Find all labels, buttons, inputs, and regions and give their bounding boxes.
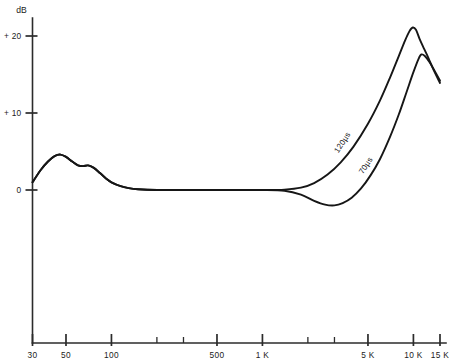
frequency-response-chart: 30501005001 K5 K10 K15 K + 20+ 100 120µs… bbox=[0, 0, 449, 364]
x-tick-label: 50 bbox=[61, 350, 71, 360]
curve-70s bbox=[33, 54, 441, 205]
x-tick-label: 30 bbox=[28, 350, 38, 360]
x-axis-ticks: 30501005001 K5 K10 K15 K bbox=[28, 334, 449, 360]
chart-canvas: 30501005001 K5 K10 K15 K + 20+ 100 120µs… bbox=[0, 0, 449, 364]
axes-group bbox=[33, 18, 447, 343]
y-axis-unit-label: dB bbox=[16, 5, 27, 15]
curve-annotations: 120µs70µs bbox=[332, 130, 374, 175]
x-tick-label: 100 bbox=[104, 350, 119, 360]
curve-120s bbox=[33, 27, 441, 190]
y-tick-label: 0 bbox=[17, 185, 22, 195]
data-curves bbox=[33, 27, 441, 205]
x-tick-label: 10 K bbox=[404, 350, 422, 360]
x-tick-label: 500 bbox=[210, 350, 225, 360]
x-tick-label: 1 K bbox=[256, 350, 270, 360]
x-tick-label: 5 K bbox=[361, 350, 375, 360]
y-tick-label: + 10 bbox=[4, 108, 22, 118]
y-tick-label: + 20 bbox=[4, 31, 22, 41]
x-tick-label: 15 K bbox=[431, 350, 449, 360]
